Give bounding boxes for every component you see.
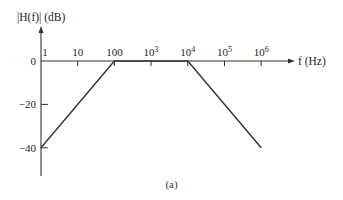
x-tick-label: 105	[217, 45, 232, 58]
series-line	[41, 61, 261, 148]
x-axis-label: f (Hz)	[298, 55, 326, 68]
x-tick-label: 104	[180, 45, 195, 58]
x-tick-label: 10	[72, 46, 84, 58]
y-axis-arrow-icon	[39, 26, 44, 33]
x-tick-label: 1	[42, 46, 48, 58]
y-tick-label: −20	[19, 98, 37, 110]
x-tick-label: 103	[144, 45, 159, 58]
y-tick-label: 0	[31, 55, 37, 67]
y-axis-label: |H(f)| (dB)	[17, 11, 66, 24]
x-tick-label: 100	[106, 46, 123, 58]
series	[41, 61, 261, 148]
y-tick-label: −40	[19, 142, 37, 154]
x-axis-arrow-icon	[288, 59, 295, 64]
tick-marks	[41, 61, 261, 148]
bode-magnitude-plot: 1101001031041051060−20−40|H(f)| (dB)f (H…	[0, 0, 343, 200]
x-tick-label: 106	[254, 45, 269, 58]
axis-labels: 1101001031041051060−20−40|H(f)| (dB)f (H…	[17, 11, 326, 154]
figure-caption: (a)	[0, 178, 343, 190]
